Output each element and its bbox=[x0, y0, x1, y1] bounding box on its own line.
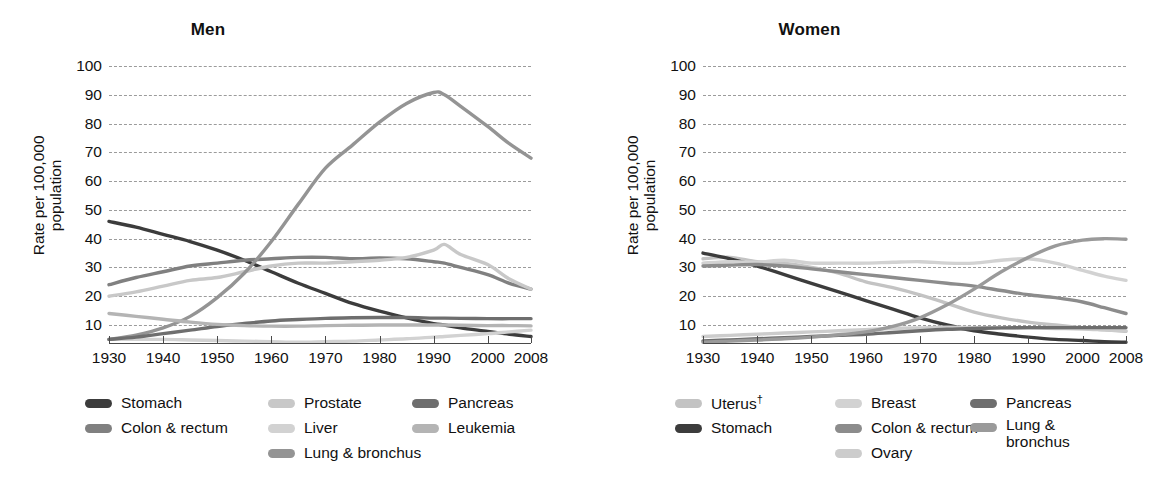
panel-women: Women Rate per 100,000population 1009080… bbox=[580, 0, 1163, 479]
x-axis-line bbox=[109, 343, 531, 344]
legend-swatch-icon bbox=[835, 424, 862, 433]
y-axis-label-men: Rate per 100,000population bbox=[30, 95, 65, 295]
x-axis-tick-label: 1950 bbox=[200, 349, 234, 367]
legend-swatch-icon bbox=[412, 424, 439, 433]
legend-item-label: Pancreas bbox=[448, 395, 513, 412]
legend-item-label: Ovary bbox=[871, 445, 912, 462]
legend-item[interactable]: Ovary bbox=[835, 442, 978, 464]
panel-men: Men Rate per 100,000population 100908070… bbox=[0, 0, 580, 479]
panel-title-women: Women bbox=[518, 20, 1101, 40]
panel-title-men: Men bbox=[0, 20, 498, 40]
x-axis-tick bbox=[217, 336, 218, 343]
x-axis-tick bbox=[531, 336, 532, 343]
x-axis-tick-label: 1970 bbox=[903, 349, 937, 367]
legend-item-label: Stomach bbox=[711, 420, 772, 437]
x-axis-tick-label: 1960 bbox=[848, 349, 882, 367]
legend-item-label: Colon & rectum bbox=[871, 420, 978, 437]
legend-item-label: Leukemia bbox=[448, 420, 515, 437]
y-axis-tick-label: 60 bbox=[679, 172, 696, 190]
legend-column-2: BreastColon & rectumOvary bbox=[835, 392, 978, 467]
legend-item-label: Colon & rectum bbox=[121, 420, 228, 437]
x-axis-tick-label: 1940 bbox=[740, 349, 774, 367]
y-axis-label-line1: Rate per 100,000 bbox=[624, 95, 641, 295]
y-axis-tick-label: 20 bbox=[85, 287, 102, 305]
x-axis-tick bbox=[380, 336, 381, 343]
series-line-colon-rectum bbox=[703, 265, 1126, 314]
y-axis-tick-label: 40 bbox=[679, 230, 696, 248]
legend-item[interactable]: Pancreas bbox=[970, 392, 1084, 414]
legend-item-label: Breast bbox=[871, 395, 916, 412]
y-axis-tick-label: 100 bbox=[76, 57, 102, 75]
legend-women: Uterus†StomachBreastColon & rectumOvaryP… bbox=[580, 392, 1163, 472]
chart-figure: Men Rate per 100,000population 100908070… bbox=[0, 0, 1163, 479]
y-axis-tick-label: 30 bbox=[679, 258, 696, 276]
x-axis-tick-label: 1980 bbox=[362, 349, 396, 367]
x-axis-tick-label: 1990 bbox=[416, 349, 450, 367]
footnote-dagger: † bbox=[757, 393, 763, 405]
x-axis-tick-label: 1930 bbox=[92, 349, 126, 367]
legend-swatch-icon bbox=[835, 449, 862, 458]
legend-item[interactable]: Stomach bbox=[675, 417, 772, 439]
legend-swatch-icon bbox=[835, 399, 862, 408]
y-axis-tick-label: 90 bbox=[85, 86, 102, 104]
legend-item[interactable]: Colon & rectum bbox=[85, 417, 228, 439]
legend-item-label: Liver bbox=[304, 420, 338, 437]
x-axis-tick bbox=[1083, 336, 1084, 343]
y-axis-tick-label: 50 bbox=[679, 201, 696, 219]
x-axis-tick-label: 2008 bbox=[514, 349, 548, 367]
y-axis-tick-label: 10 bbox=[679, 316, 696, 334]
x-axis-tick bbox=[109, 336, 110, 343]
y-axis-tick-label: 40 bbox=[85, 230, 102, 248]
legend-swatch-icon bbox=[970, 399, 997, 408]
legend-swatch-icon bbox=[412, 399, 439, 408]
legend-item-label: Lung & bronchus bbox=[304, 445, 421, 462]
legend-item[interactable]: Pancreas bbox=[412, 392, 515, 414]
legend-item-label: Lung & bronchus bbox=[1006, 417, 1084, 450]
legend-item[interactable]: Breast bbox=[835, 392, 978, 414]
x-axis-tick-label: 1960 bbox=[254, 349, 288, 367]
legend-swatch-icon bbox=[85, 424, 112, 433]
x-axis-tick bbox=[488, 336, 489, 343]
legend-item-label: Prostate bbox=[304, 395, 362, 412]
legend-item-label: Uterus† bbox=[711, 394, 763, 413]
legend-column-1: StomachColon & rectum bbox=[85, 392, 228, 442]
x-axis-tick bbox=[920, 336, 921, 343]
y-axis-tick-label: 70 bbox=[85, 143, 102, 161]
plot-area-men: 1009080706050403020101930194019501960197… bbox=[109, 66, 531, 325]
x-axis-tick bbox=[757, 336, 758, 343]
legend-item[interactable]: Lung & bronchus bbox=[970, 417, 1084, 439]
legend-item-label: Stomach bbox=[121, 395, 182, 412]
y-axis-tick-label: 70 bbox=[679, 143, 696, 161]
legend-column-3: PancreasLeukemia bbox=[412, 392, 515, 442]
legend-column-2: ProstateLiverLung & bronchus bbox=[268, 392, 421, 467]
y-axis-tick-label: 10 bbox=[85, 316, 102, 334]
y-axis-tick-label: 80 bbox=[679, 115, 696, 133]
legend-item[interactable]: Stomach bbox=[85, 392, 228, 414]
legend-item[interactable]: Lung & bronchus bbox=[268, 442, 421, 464]
y-axis-tick-label: 30 bbox=[85, 258, 102, 276]
series-line-lung-bronchus bbox=[109, 92, 531, 339]
x-axis-tick-label: 1990 bbox=[1011, 349, 1045, 367]
x-axis-tick bbox=[163, 336, 164, 343]
legend-item[interactable]: Prostate bbox=[268, 392, 421, 414]
x-axis-tick bbox=[1028, 336, 1029, 343]
y-axis-tick-label: 20 bbox=[679, 287, 696, 305]
legend-item[interactable]: Liver bbox=[268, 417, 421, 439]
y-axis-label-line2: population bbox=[47, 95, 64, 295]
legend-men: StomachColon & rectumProstateLiverLung &… bbox=[0, 392, 580, 472]
x-axis-tick bbox=[325, 336, 326, 343]
legend-item[interactable]: Uterus† bbox=[675, 392, 772, 414]
x-axis-tick-label: 2000 bbox=[1065, 349, 1099, 367]
legend-swatch-icon bbox=[675, 399, 702, 408]
legend-column-1: Uterus†Stomach bbox=[675, 392, 772, 442]
legend-item-label: Pancreas bbox=[1006, 395, 1071, 412]
y-axis-tick-label: 80 bbox=[85, 115, 102, 133]
x-axis-tick-label: 2008 bbox=[1109, 349, 1143, 367]
legend-swatch-icon bbox=[970, 423, 997, 432]
legend-swatch-icon bbox=[85, 399, 112, 408]
x-axis-tick bbox=[434, 336, 435, 343]
y-axis-label-line2: population bbox=[641, 95, 658, 295]
legend-item[interactable]: Colon & rectum bbox=[835, 417, 978, 439]
legend-swatch-icon bbox=[268, 424, 295, 433]
legend-item[interactable]: Leukemia bbox=[412, 417, 515, 439]
